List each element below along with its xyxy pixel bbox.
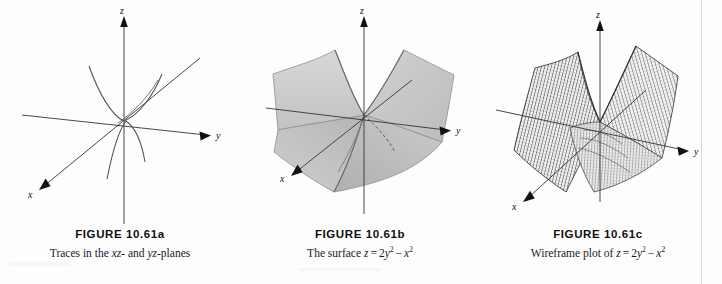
eq-term2-exp: 2 bbox=[661, 245, 665, 254]
caption-text-prefix: Traces in the bbox=[50, 247, 112, 259]
eq-operator: − bbox=[646, 247, 657, 259]
axis-label-y: y bbox=[215, 130, 221, 141]
caption-text-mid: - and bbox=[121, 247, 147, 259]
trace-yz-upward-parabola bbox=[89, 66, 162, 121]
equation-c: z=2y2−x2 bbox=[616, 247, 665, 259]
figure-panel-a: z y x FIGURE 10.61a Traces in the xz- an… bbox=[0, 0, 240, 284]
axis-label-y: y bbox=[455, 125, 461, 136]
y-axis-arrowhead bbox=[677, 147, 689, 156]
figure-a-label: FIGURE 10.61a bbox=[0, 228, 240, 240]
figure-c-label: FIGURE 10.61c bbox=[478, 228, 718, 240]
textbook-figure-page: z y x FIGURE 10.61a Traces in the xz- an… bbox=[0, 0, 722, 284]
axis-label-x: x bbox=[27, 189, 33, 200]
z-axis-arrowhead bbox=[360, 16, 368, 27]
caption-text-suffix: -planes bbox=[157, 247, 190, 259]
axis-label-z: z bbox=[595, 9, 600, 20]
figure-b-svg: z y x bbox=[240, 2, 480, 224]
page-edge-rule bbox=[701, 0, 702, 284]
caption-var-yz: yz bbox=[147, 247, 157, 259]
axis-label-x: x bbox=[279, 173, 285, 184]
caption-text-prefix: The surface bbox=[307, 247, 364, 259]
eq-term1-exp: 2 bbox=[390, 245, 394, 254]
figure-panel-c: z y x FIGURE 10.61c Wireframe plot of z=… bbox=[478, 0, 718, 284]
axis-label-x: x bbox=[511, 201, 517, 212]
figure-panel-b: z y x FIGURE 10.61b The surface z=2y2−x2 bbox=[240, 0, 480, 284]
y-axis-line bbox=[22, 115, 206, 135]
figure-b-caption: The surface z=2y2−x2 bbox=[240, 247, 480, 259]
axis-label-y: y bbox=[693, 146, 699, 157]
figure-c-svg: z y x bbox=[478, 2, 722, 224]
figure-b-label: FIGURE 10.61b bbox=[240, 228, 480, 240]
eq-operator: − bbox=[394, 247, 405, 259]
figure-c-caption: Wireframe plot of z=2y2−x2 bbox=[478, 247, 718, 259]
figure-c-artwork: z y x bbox=[478, 2, 718, 224]
z-axis-arrowhead bbox=[120, 16, 128, 27]
y-axis-arrowhead bbox=[200, 131, 212, 140]
caption-text-prefix: Wireframe plot of bbox=[531, 247, 616, 259]
equation-b: z=2y2−x2 bbox=[364, 247, 413, 259]
x-axis-arrowhead bbox=[39, 179, 51, 190]
caption-var-xz: xz bbox=[112, 247, 122, 259]
axis-label-z: z bbox=[359, 5, 364, 16]
x-axis-arrowhead bbox=[523, 191, 535, 202]
x-axis-line bbox=[44, 58, 200, 186]
eq-term2-exp: 2 bbox=[409, 245, 413, 254]
eq-equals: = bbox=[621, 247, 632, 259]
figure-b-artwork: z y x bbox=[240, 2, 480, 224]
figure-a-svg: z y x bbox=[0, 2, 240, 224]
axis-label-z: z bbox=[119, 5, 124, 16]
eq-equals: = bbox=[368, 247, 379, 259]
figure-a-artwork: z y x bbox=[0, 2, 240, 224]
z-axis-arrowhead bbox=[596, 20, 604, 31]
figure-a-caption: Traces in the xz- and yz-planes bbox=[0, 247, 240, 259]
y-axis-arrowhead bbox=[440, 126, 452, 135]
